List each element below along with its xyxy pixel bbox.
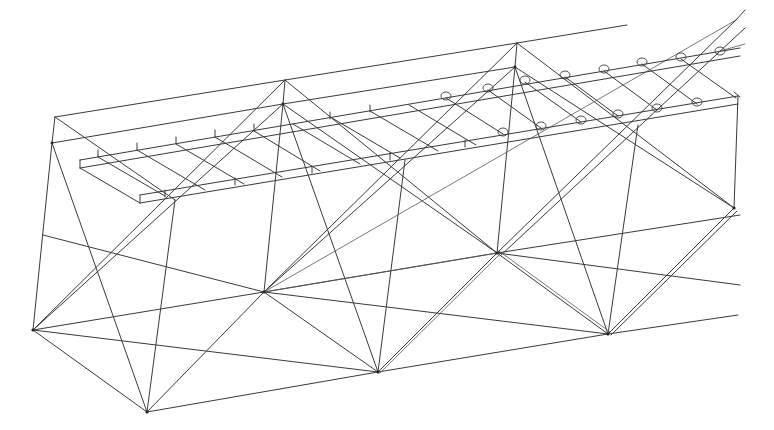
post <box>283 80 285 104</box>
truss-wireframe <box>0 0 774 430</box>
truss-bridge-diagram <box>0 0 774 430</box>
deck-beam <box>98 157 165 196</box>
diagonal <box>378 253 497 372</box>
diagonal <box>33 104 283 330</box>
bottom-chord <box>608 315 738 334</box>
vertical <box>378 160 405 372</box>
diagonal <box>500 28 745 256</box>
deck-beam <box>681 59 736 98</box>
bottom-chord <box>147 372 378 412</box>
deck-beam <box>332 118 400 158</box>
deck-beam <box>565 77 618 116</box>
vertical <box>147 200 175 412</box>
deck-beam <box>488 90 541 128</box>
deck-end <box>80 168 140 203</box>
diagonal <box>736 10 745 20</box>
vertical <box>608 125 638 334</box>
diagonal <box>43 235 264 292</box>
diagonal <box>147 292 264 412</box>
diagonal <box>55 117 175 200</box>
diagonal <box>52 143 147 412</box>
deck-rail-back <box>80 48 740 160</box>
end-vertical <box>734 96 738 208</box>
deck-beam <box>604 71 657 110</box>
deck-beam <box>293 124 360 164</box>
bottom-chord <box>378 334 608 372</box>
bolt-icon <box>441 92 451 100</box>
diagonal <box>611 211 737 335</box>
end-post <box>52 117 55 143</box>
cross-brace <box>33 330 378 372</box>
top-chord <box>55 25 627 117</box>
deck-rail-front <box>140 104 738 203</box>
diagonal <box>515 67 608 334</box>
mid-chord <box>497 215 740 253</box>
bolt-icon <box>520 76 530 84</box>
bolt-icon <box>599 65 609 73</box>
post <box>515 43 517 67</box>
mid-chord <box>33 292 264 330</box>
node-dots <box>31 66 735 414</box>
diagonal <box>264 253 497 292</box>
diagonal <box>608 208 734 334</box>
upper-chord <box>52 104 283 143</box>
diagonal <box>33 80 285 330</box>
diagonal <box>264 43 517 292</box>
vertical <box>264 104 283 292</box>
deck-beam <box>254 131 320 171</box>
